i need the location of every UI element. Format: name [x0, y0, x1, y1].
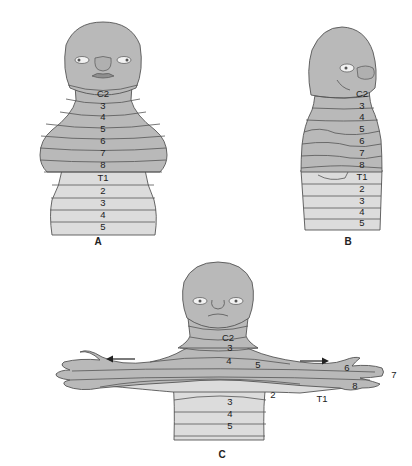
label-t1: T1: [356, 171, 367, 182]
eye-left-icon: [75, 57, 89, 64]
label-t4: 4: [359, 206, 364, 217]
label-c2: C2: [356, 88, 368, 99]
label-c5: 5: [359, 123, 364, 134]
label-t3: 3: [227, 396, 232, 407]
eye-right-icon: [117, 57, 131, 64]
label-t2: 2: [359, 183, 364, 194]
label-t3: 3: [100, 197, 105, 208]
label-c6: 6: [359, 135, 364, 146]
panel-b: C2 3 4 5 6 7 8 T1 2 3 4 5 B: [301, 27, 382, 247]
label-t5: 5: [227, 420, 232, 431]
panel-c: C2 3 4 5 6 7 8 T1 2 3 4 5 C: [56, 262, 397, 460]
caption-c: C: [218, 449, 225, 460]
label-t1: T1: [316, 393, 327, 404]
label-c3: 3: [227, 342, 232, 353]
label-c5: 5: [255, 359, 260, 370]
label-c3: 3: [100, 100, 105, 111]
label-c8: 8: [352, 380, 357, 391]
label-t2: 2: [270, 389, 275, 400]
label-c7: 7: [391, 369, 396, 380]
label-c3: 3: [359, 100, 364, 111]
caption-a: A: [94, 236, 101, 247]
label-t4: 4: [227, 408, 232, 419]
label-c2: C2: [97, 88, 109, 99]
label-c6: 6: [344, 362, 349, 373]
label-t2: 2: [100, 185, 105, 196]
label-t5: 5: [100, 221, 105, 232]
label-c5: 5: [100, 123, 105, 134]
label-t4: 4: [100, 209, 105, 220]
label-c7: 7: [100, 147, 105, 158]
label-c4: 4: [359, 111, 364, 122]
caption-b: B: [344, 236, 351, 247]
label-c4: 4: [100, 111, 105, 122]
panel-a: C2 3 4 5 6 7 8 T1 2 3 4 5 A: [40, 22, 167, 247]
label-c8: 8: [359, 159, 364, 170]
label-c6: 6: [100, 135, 105, 146]
label-t3: 3: [359, 195, 364, 206]
label-c8: 8: [100, 159, 105, 170]
label-t1: T1: [97, 172, 108, 183]
label-c7: 7: [359, 147, 364, 158]
label-c4: 4: [226, 355, 231, 366]
label-t5: 5: [359, 217, 364, 228]
dermatome-figure: C2 3 4 5 6 7 8 T1 2 3 4 5 A: [0, 0, 412, 466]
